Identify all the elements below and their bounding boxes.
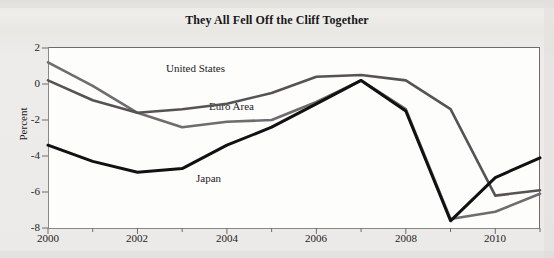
x-axis-ticks <box>48 228 540 234</box>
series-line-japan <box>48 80 540 220</box>
y-axis-ticks <box>42 48 48 228</box>
chart-svg-layer <box>0 0 554 258</box>
figure-page: They All Fell Off the Cliff Together Per… <box>0 0 554 258</box>
series-line-united-states <box>48 75 540 196</box>
